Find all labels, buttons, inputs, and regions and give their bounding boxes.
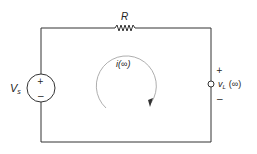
wires bbox=[41, 28, 211, 142]
circuit-diagram: R + − Vs i(∞) + − vL(∞) bbox=[0, 0, 257, 154]
output-terminal bbox=[208, 81, 214, 87]
wire-top-left bbox=[41, 28, 115, 74]
source-plus-sign: + bbox=[37, 77, 44, 86]
output-voltage-label: vL(∞) bbox=[218, 79, 241, 90]
output-plus-sign: + bbox=[216, 66, 223, 75]
source-label: Vs bbox=[10, 82, 21, 95]
resistor-label: R bbox=[121, 11, 128, 22]
source-minus-sign: − bbox=[37, 91, 45, 101]
wire-top-right bbox=[135, 28, 211, 81]
wire-right-bottom bbox=[41, 87, 211, 142]
resistor-symbol bbox=[115, 25, 135, 31]
output-minus-sign: − bbox=[216, 94, 224, 104]
loop-current-label: i(∞) bbox=[116, 59, 130, 69]
loop-current-arrowhead-icon bbox=[148, 98, 153, 107]
